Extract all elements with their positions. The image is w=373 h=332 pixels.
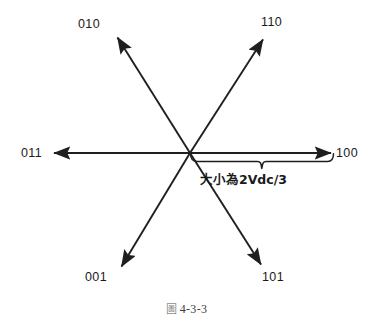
vector-label-010: 010 <box>78 18 100 31</box>
figure-caption-number: 4-3-3 <box>180 302 208 316</box>
vector-label-011: 011 <box>21 147 42 160</box>
vector-arrow-110 <box>190 40 263 154</box>
space-vector-figure: 010 110 100 101 001 011 大小為2Vdc/3 圖 4-3-… <box>0 0 373 332</box>
vector-label-110: 110 <box>261 16 282 29</box>
magnitude-brace <box>191 154 334 169</box>
magnitude-annotation-label: 大小為2Vdc/3 <box>200 174 287 187</box>
vector-label-001: 001 <box>85 271 107 284</box>
figure-caption: 圖 4-3-3 <box>0 303 373 315</box>
vector-arrow-001 <box>122 153 191 267</box>
vector-diagram-svg <box>0 0 373 332</box>
vector-arrow-010 <box>118 38 191 154</box>
figure-caption-prefix: 圖 <box>166 303 177 316</box>
vector-arrows <box>54 38 331 267</box>
vector-label-101: 101 <box>262 271 284 284</box>
vector-label-100: 100 <box>336 147 358 160</box>
vector-arrow-101 <box>190 153 261 265</box>
